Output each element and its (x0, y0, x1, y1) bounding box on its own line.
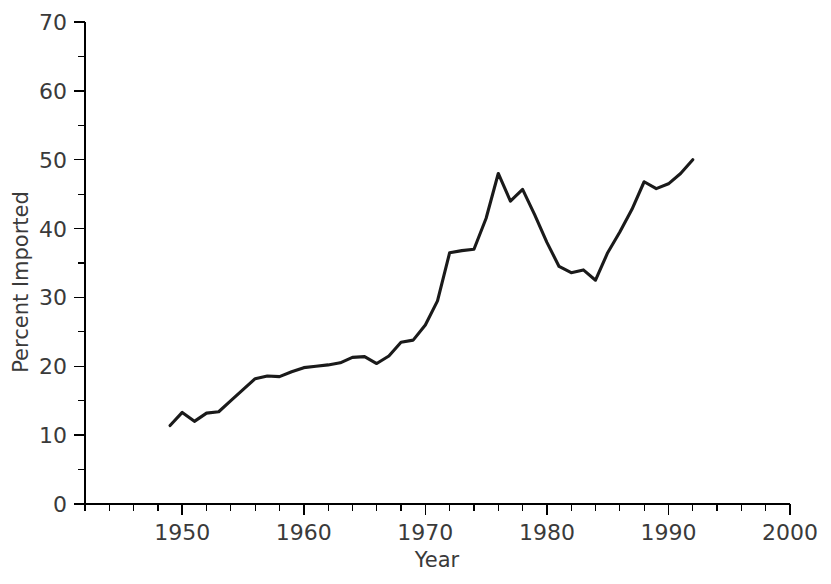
x-tick-label: 1980 (519, 520, 575, 545)
y-tick-label: 20 (39, 354, 67, 379)
y-tick-label: 70 (39, 10, 67, 35)
y-tick-label: 0 (53, 492, 67, 517)
y-tick-label: 10 (39, 423, 67, 448)
y-tick-label: 60 (39, 79, 67, 104)
y-tick-label: 30 (39, 285, 67, 310)
y-axis-tick-labels: 010203040506070 (39, 10, 67, 517)
x-axis-title: Year (414, 548, 460, 572)
chart-figure: 010203040506070 195019601970198019902000… (0, 0, 831, 584)
data-series-line (170, 160, 693, 426)
x-axis-ticks (85, 504, 790, 515)
x-tick-label: 1970 (397, 520, 453, 545)
line-chart-svg: 010203040506070 195019601970198019902000… (0, 0, 831, 584)
y-axis-ticks (74, 22, 85, 504)
x-tick-label: 1950 (154, 520, 210, 545)
x-tick-label: 1960 (276, 520, 332, 545)
x-tick-label: 1990 (640, 520, 696, 545)
y-tick-label: 40 (39, 217, 67, 242)
y-tick-label: 50 (39, 148, 67, 173)
y-axis-title: Percent Imported (9, 191, 33, 373)
x-axis-tick-labels: 195019601970198019902000 (154, 520, 818, 545)
x-tick-label: 2000 (762, 520, 818, 545)
